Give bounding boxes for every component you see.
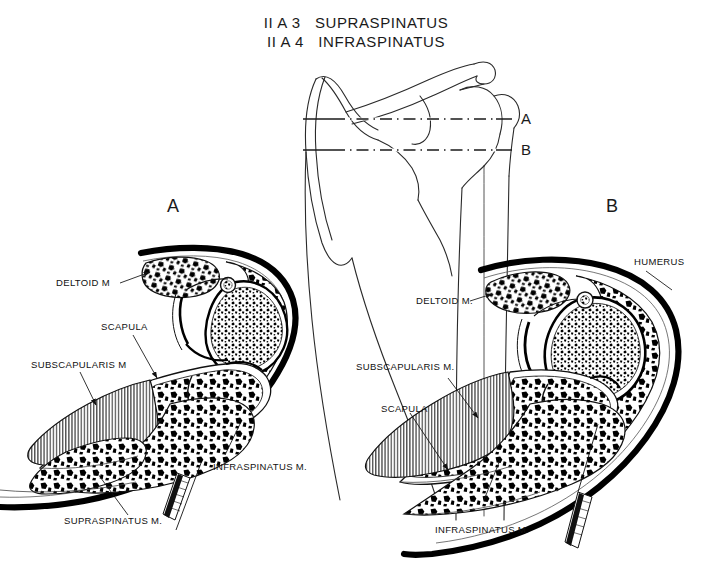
figure-canvas: II A 3 SUPRASPINATUS II A 4 INFRASPINATU… (0, 0, 712, 575)
label-humerus-b: HUMERUS (634, 256, 684, 267)
cross-section-a (0, 248, 295, 530)
label-scapula-b: SCAPULA (381, 403, 428, 414)
label-subscapularis-b: SUBSCAPULARIS M. (356, 361, 455, 372)
label-deltoid-b: DELTOID M. (416, 295, 473, 306)
leader-subscap-a (80, 372, 96, 405)
label-deltoid-a: DELTOID M (56, 277, 110, 288)
level-label-a: A (521, 110, 531, 127)
label-infraspinatus-b: INFRASPINATUS M. (435, 524, 529, 535)
label-infraspinatus-a: INFRASPINATUS M. (213, 461, 307, 472)
panel-letter-a: A (167, 196, 179, 217)
label-subscapularis-a: SUBSCAPULARIS M (31, 359, 127, 370)
label-scapula-a: SCAPULA (101, 321, 148, 332)
level-label-b: B (521, 141, 531, 158)
panel-letter-b: B (606, 196, 618, 217)
leader-scapula-a (133, 335, 157, 378)
label-supraspinatus-a: SUPRASPINATUS M. (64, 515, 162, 526)
